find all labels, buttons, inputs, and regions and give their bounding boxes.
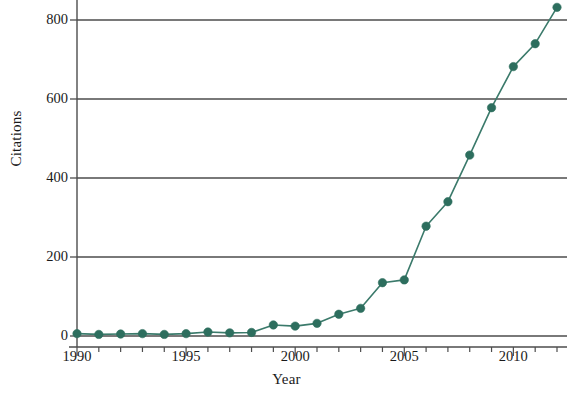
citations-line-chart: Citations Year 0200400600800 19901995200… [0, 0, 573, 398]
data-point-2003 [356, 304, 364, 312]
data-point-1997 [226, 329, 234, 337]
data-point-2011 [531, 40, 539, 48]
data-point-2007 [444, 198, 452, 206]
citations-series-line [77, 7, 557, 334]
data-point-1990 [73, 329, 81, 337]
data-point-2009 [487, 103, 495, 111]
data-point-2008 [466, 151, 474, 159]
data-point-2012 [553, 3, 561, 11]
data-point-1994 [160, 330, 168, 338]
data-point-2001 [313, 319, 321, 327]
data-point-1991 [95, 330, 103, 338]
plot-area [0, 0, 573, 398]
data-point-2006 [422, 222, 430, 230]
data-point-1995 [182, 329, 190, 337]
data-point-2000 [291, 322, 299, 330]
data-point-1999 [269, 321, 277, 329]
data-point-1996 [204, 328, 212, 336]
data-point-1998 [247, 328, 255, 336]
data-point-1993 [138, 329, 146, 337]
data-point-2005 [400, 276, 408, 284]
citations-series-markers [73, 3, 561, 338]
data-point-2004 [378, 278, 386, 286]
axis-lines [69, 0, 567, 347]
data-point-2002 [335, 310, 343, 318]
gridlines [77, 20, 567, 336]
x-axis-minor-ticks [77, 347, 557, 356]
data-point-2010 [509, 62, 517, 70]
y-axis-ticks [70, 20, 77, 336]
data-point-1992 [116, 330, 124, 338]
